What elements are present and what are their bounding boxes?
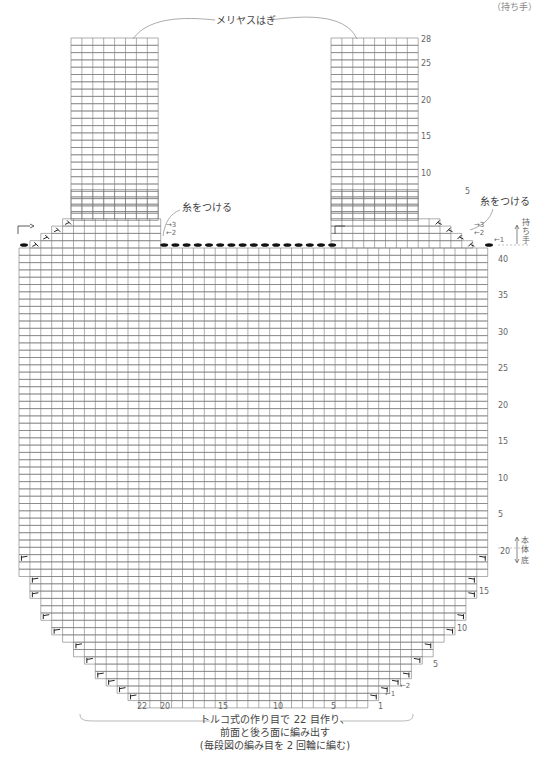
decrease-icon bbox=[447, 228, 453, 232]
right-row-arrow-3: →3 bbox=[474, 222, 484, 229]
strap-row-5: 5 bbox=[465, 188, 470, 196]
decrease-icon bbox=[87, 658, 93, 663]
bind-off-oval-icon bbox=[250, 243, 258, 247]
handle-section-label: 持ち手 bbox=[522, 218, 530, 245]
caption-line-1: トルコ式の作り目で 22 目作り、 bbox=[130, 713, 420, 726]
bind-off-oval-icon bbox=[272, 243, 280, 247]
bottom-row-2: ←2 bbox=[400, 683, 410, 690]
decrease-icon bbox=[414, 658, 420, 663]
bind-off-oval-icon bbox=[485, 243, 493, 247]
body-section-label: 本体 bbox=[521, 536, 529, 554]
body-row-15: 15 bbox=[498, 438, 508, 446]
decrease-icon bbox=[457, 614, 463, 619]
bind-off-oval-icon bbox=[160, 243, 168, 247]
bottom-row-20: 20 bbox=[500, 548, 510, 556]
col-5: 5 bbox=[331, 703, 336, 711]
bind-off-oval-icon bbox=[194, 243, 202, 247]
left-row-arrow-3: →3 bbox=[166, 222, 176, 229]
body-row-20: 20 bbox=[498, 402, 508, 410]
decrease-icon bbox=[98, 673, 104, 678]
col-22: 22 bbox=[137, 703, 147, 711]
strap-row-10: 10 bbox=[421, 170, 431, 178]
body-row-35: 35 bbox=[498, 292, 508, 300]
col-20: 20 bbox=[160, 703, 170, 711]
bottom-row-1: ←1 bbox=[385, 691, 395, 698]
decrease-icon bbox=[457, 235, 463, 239]
bottom-row-10: 10 bbox=[457, 625, 467, 633]
decrease-icon bbox=[130, 694, 136, 699]
strap-row-28: 28 bbox=[421, 36, 431, 44]
attach-yarn-right-label: 糸をつける bbox=[480, 197, 530, 207]
strap-row-15: 15 bbox=[421, 133, 431, 141]
col-1: 1 bbox=[378, 703, 383, 711]
bind-off-oval-icon bbox=[261, 243, 269, 247]
bottom-section-label: 底 bbox=[521, 557, 529, 565]
strap-row-20: 20 bbox=[421, 97, 431, 105]
decrease-icon bbox=[32, 242, 38, 246]
decrease-icon bbox=[468, 242, 474, 246]
decrease-icon bbox=[32, 592, 38, 597]
attach-yarn-left-label: 糸をつける bbox=[182, 203, 232, 213]
body-row-40: 40 bbox=[498, 256, 508, 264]
decrease-icon bbox=[370, 694, 376, 699]
decrease-icon bbox=[76, 643, 82, 648]
body-row-25: 25 bbox=[498, 365, 508, 373]
decrease-icon bbox=[468, 578, 474, 583]
decrease-icon bbox=[479, 556, 485, 561]
decrease-icon bbox=[65, 220, 71, 224]
left-row-arrow-2: ←2 bbox=[166, 230, 176, 237]
decrease-icon bbox=[109, 680, 115, 685]
decrease-icon bbox=[425, 643, 431, 648]
body-row-10: 10 bbox=[498, 475, 508, 483]
bind-off-oval-icon bbox=[317, 243, 325, 247]
bind-off-oval-icon bbox=[183, 243, 191, 247]
cast-on-caption: トルコ式の作り目で 22 目作り、 前面と後ろ面に編み出す (毎段図の編み目を … bbox=[130, 713, 420, 752]
decrease-icon bbox=[21, 556, 27, 561]
bind-off-oval-icon bbox=[171, 243, 179, 247]
knitting-chart bbox=[0, 0, 547, 765]
turn-arrow-icon bbox=[335, 226, 345, 234]
right-row-arrow-2: ←2 bbox=[474, 230, 484, 237]
col-15: 15 bbox=[218, 703, 228, 711]
bind-off-oval-icon bbox=[306, 243, 314, 247]
decrease-icon bbox=[436, 220, 442, 224]
bind-off-oval-icon bbox=[295, 243, 303, 247]
bottom-row-5: 5 bbox=[433, 661, 438, 669]
body-row-30: 30 bbox=[498, 329, 508, 337]
bind-off-oval-icon bbox=[20, 243, 28, 247]
decrease-icon bbox=[54, 629, 60, 634]
caption-line-2: 前面と後ろ面に編み出す bbox=[130, 726, 420, 739]
col-10: 10 bbox=[273, 703, 283, 711]
decrease-icon bbox=[403, 673, 409, 678]
bind-off-oval-icon bbox=[283, 243, 291, 247]
decrease-icon bbox=[54, 228, 60, 232]
decrease-icon bbox=[43, 614, 49, 619]
decrease-icon bbox=[447, 629, 453, 634]
decrease-icon bbox=[120, 687, 126, 692]
strap-row-25: 25 bbox=[421, 60, 431, 68]
bind-off-oval-icon bbox=[205, 243, 213, 247]
bind-off-oval-icon bbox=[328, 243, 336, 247]
decrease-icon bbox=[32, 578, 38, 583]
decrease-icon bbox=[43, 235, 49, 239]
decrease-icon bbox=[468, 592, 474, 597]
turn-arrow-icon bbox=[18, 226, 30, 234]
joining-label: メリヤスはぎ bbox=[216, 16, 276, 26]
decrease-icon bbox=[392, 680, 398, 685]
bind-off-oval-icon bbox=[239, 243, 247, 247]
bottom-row-15: 15 bbox=[479, 588, 489, 596]
bind-off-oval-icon bbox=[227, 243, 235, 247]
right-row-arrow-1: ←1 bbox=[494, 237, 504, 244]
body-row-5: 5 bbox=[498, 511, 503, 519]
caption-line-3: (毎段図の編み目を 2 回輪に編む) bbox=[130, 739, 420, 752]
bind-off-oval-icon bbox=[216, 243, 224, 247]
